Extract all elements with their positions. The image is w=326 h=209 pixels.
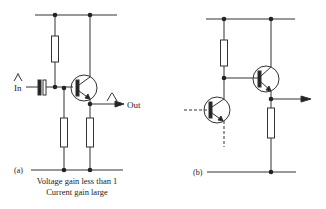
panel-b-transistor-2-collector — [261, 67, 271, 76]
junction-dot — [53, 13, 58, 18]
panel-a-transistor-base-bar — [76, 80, 79, 96]
junction-dot — [88, 13, 93, 18]
panel-a-emitter-resistor — [87, 118, 94, 147]
panel-b-label: (b) — [193, 168, 203, 177]
junction-dot — [53, 85, 58, 90]
panel-b-transistor-2-body — [253, 66, 279, 92]
panel-b-t1-emitter-arrow-icon — [218, 116, 223, 121]
panel-b-emitter-resistor — [268, 108, 275, 138]
panel-b-bias-resistor — [221, 40, 228, 66]
panel-a-caption-line-1: Voltage gain less than 1 — [37, 176, 118, 186]
junction-dot — [269, 17, 274, 22]
junction-dot — [62, 168, 67, 173]
panel-b-transistor-1-collector — [212, 99, 224, 107]
panel-b-output-arrow-icon — [301, 96, 311, 102]
panel-b-transistor-1-base-bar — [209, 102, 212, 118]
panel-a-output-pulse-icon — [107, 93, 117, 101]
panel-a-transistor-body — [71, 75, 97, 101]
panel-b-junction-dots — [222, 17, 274, 175]
panel-a-emitter-follower — [14, 15, 124, 170]
junction-dot — [269, 97, 274, 102]
junction-dot — [88, 102, 93, 107]
panel-a-input-label: In — [14, 83, 22, 93]
panel-a-emitter-arrow-icon — [85, 94, 90, 99]
panel-a-label: (a) — [14, 166, 23, 175]
panel-a-bias-resistor — [52, 36, 59, 62]
junction-dot — [62, 86, 67, 91]
circuit-diagram: In Out (a) Voltage gain less than 1 Curr… — [0, 0, 326, 209]
panel-a-base-resistor — [61, 118, 68, 147]
panel-b-transistor-2-base-bar — [258, 71, 261, 87]
junction-dot — [222, 76, 227, 81]
panel-a-output-label: Out — [127, 100, 141, 110]
panel-b-transistor-1-body — [204, 97, 230, 123]
panel-a-output-arrow-icon — [115, 101, 124, 107]
panel-a-input-pulse-icon — [14, 74, 22, 82]
panel-b-darlington — [184, 19, 311, 172]
panel-a-capacitor-plate-1 — [38, 80, 41, 95]
junction-dot — [222, 17, 227, 22]
junction-dot — [88, 168, 93, 173]
panel-a-capacitor-plate-2 — [43, 80, 46, 95]
panel-a-caption-line-2: Current gain large — [46, 187, 108, 197]
junction-dot — [269, 170, 274, 175]
panel-a-transistor-collector — [79, 77, 90, 85]
